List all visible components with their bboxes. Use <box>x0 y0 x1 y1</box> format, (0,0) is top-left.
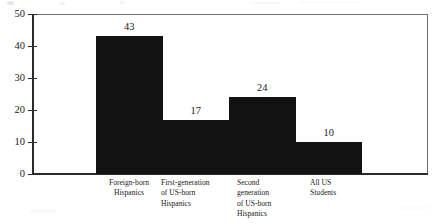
x-axis-category-label: Foreign-born Hispanics <box>86 178 172 199</box>
scan-artifact <box>120 1 124 4</box>
scan-artifact <box>250 2 280 4</box>
y-axis-tick <box>28 110 37 111</box>
bar <box>163 120 230 174</box>
y-axis-tick-label: 0 <box>0 169 25 179</box>
x-axis-category-label: Second generation of US-born Hispanics <box>237 178 311 220</box>
y-axis-tick-label: 50 <box>0 9 25 19</box>
scan-artifact <box>60 2 65 5</box>
y-axis-tick <box>28 78 37 79</box>
bar <box>229 97 296 174</box>
y-axis-tick-label: 10 <box>0 137 25 147</box>
y-axis-tick-label: 30 <box>0 73 25 83</box>
plot-frame-top <box>32 14 428 15</box>
scan-artifact <box>300 1 360 3</box>
x-axis-category-label: First-generation of US-born Hispanics <box>161 178 243 209</box>
y-axis-tick <box>28 142 37 143</box>
scan-artifact <box>30 210 56 213</box>
y-axis-tick-label: 40 <box>0 41 25 51</box>
scan-artifact <box>7 1 14 5</box>
bar-value-label: 43 <box>96 21 163 32</box>
y-axis-tick <box>28 14 37 15</box>
y-axis-tick <box>28 46 37 47</box>
scan-artifact <box>400 205 430 209</box>
x-axis-category-label: All US Students <box>310 178 382 199</box>
bar <box>96 36 163 174</box>
y-axis-tick-label: 20 <box>0 105 25 115</box>
plot-frame-right <box>427 14 428 175</box>
bar-value-label: 24 <box>229 82 296 93</box>
bar-value-label: 17 <box>163 105 230 116</box>
bar-value-label: 10 <box>296 127 363 138</box>
bar <box>296 142 363 174</box>
y-axis-line <box>32 14 34 175</box>
bar-chart-figure: 01020304050 43172410 Foreign-born Hispan… <box>0 0 439 224</box>
y-axis-tick <box>28 174 37 175</box>
